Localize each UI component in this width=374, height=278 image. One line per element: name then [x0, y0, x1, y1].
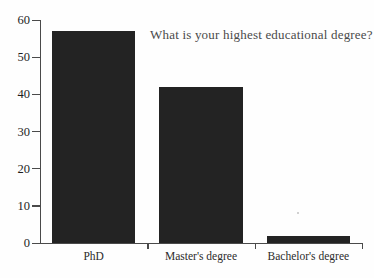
y-tick-mark	[32, 168, 40, 169]
x-axis-spine	[40, 243, 362, 244]
y-tick-label: 50	[0, 51, 30, 64]
bar-chart: 0102030405060 PhDMaster's degreeBachelor…	[0, 0, 374, 278]
chart-title: What is your highest educational degree?	[150, 27, 373, 43]
y-tick-label: 60	[0, 14, 30, 27]
bar	[159, 87, 242, 243]
y-tick-label: 30	[0, 126, 30, 139]
y-tick-mark	[32, 94, 40, 95]
bars-container	[40, 20, 362, 243]
x-tick-mark	[255, 243, 256, 249]
y-tick-label: 0	[0, 237, 30, 250]
x-tick-mark	[147, 243, 148, 249]
y-tick-mark	[32, 205, 40, 206]
y-tick-label: 10	[0, 200, 30, 213]
y-tick-mark	[32, 131, 40, 132]
x-tick-mark	[362, 243, 363, 249]
y-tick-mark	[32, 243, 40, 244]
category-label: Master's degree	[147, 250, 254, 263]
scan-speck	[297, 212, 299, 214]
category-label: Bachelor's degree	[255, 250, 362, 263]
y-tick-label: 20	[0, 163, 30, 176]
y-tick-label: 40	[0, 88, 30, 101]
bar	[267, 236, 350, 243]
y-tick-mark	[32, 57, 40, 58]
y-tick-mark	[32, 20, 40, 21]
category-label: PhD	[40, 250, 147, 263]
bar	[52, 31, 135, 243]
